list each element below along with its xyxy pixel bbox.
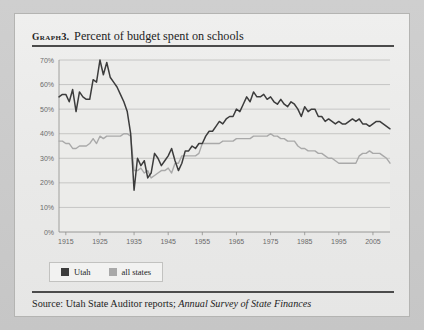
title-divider	[32, 45, 394, 47]
x-axis-tick-label: 1985	[297, 238, 313, 245]
legend-label-all-states: all states	[122, 267, 152, 277]
figure-card-surface: Graph3.Percent of budget spent on school…	[15, 14, 409, 316]
plot-background	[59, 60, 390, 232]
chart-legend: Utah all states	[49, 262, 163, 282]
source-prefix: Source: Utah State Auditor reports;	[32, 298, 176, 309]
legend-swatch-all-states	[109, 268, 117, 276]
figure-number: 3.	[61, 31, 69, 42]
y-axis-tick-label: 20%	[40, 179, 54, 186]
x-axis-tick-label: 1945	[160, 238, 176, 245]
x-axis-tick-label: 1965	[229, 238, 245, 245]
y-axis-tick-label: 60%	[40, 81, 54, 88]
legend-item-all-states: all states	[109, 267, 152, 277]
figure-label: Graph	[32, 32, 61, 42]
legend-label-utah: Utah	[74, 267, 91, 277]
x-axis-tick-label: 1955	[195, 238, 211, 245]
source-divider	[32, 291, 394, 293]
y-axis-tick-label: 30%	[40, 155, 54, 162]
chart-plot-area: 0%10%20%30%40%50%60%70%19151925193519451…	[32, 54, 394, 254]
y-axis-tick-label: 10%	[40, 204, 54, 211]
figure-card: Graph3.Percent of budget spent on school…	[14, 13, 410, 317]
x-axis-tick-label: 1975	[263, 238, 279, 245]
y-axis-tick-label: 50%	[40, 106, 54, 113]
y-axis-tick-label: 40%	[40, 130, 54, 137]
figure-title-row: Graph3.Percent of budget spent on school…	[32, 26, 394, 44]
source-publication-title: Annual Survey of State Finances	[178, 298, 311, 309]
line-chart: 0%10%20%30%40%50%60%70%19151925193519451…	[32, 54, 394, 254]
x-axis-tick-label: 1915	[58, 238, 74, 245]
y-axis-tick-label: 70%	[40, 57, 54, 64]
legend-item-utah: Utah	[61, 267, 91, 277]
x-axis-tick-label: 1925	[92, 238, 108, 245]
x-axis-tick-label: 1995	[331, 238, 347, 245]
x-axis-tick-label: 1935	[126, 238, 142, 245]
legend-swatch-utah	[61, 268, 69, 276]
x-axis-tick-label: 2005	[365, 238, 381, 245]
source-note: Source: Utah State Auditor reports; Annu…	[32, 298, 398, 309]
page-root: Graph3.Percent of budget spent on school…	[0, 0, 424, 330]
page-title: Percent of budget spent on schools	[74, 29, 244, 43]
y-axis-tick-label: 0%	[44, 229, 54, 236]
